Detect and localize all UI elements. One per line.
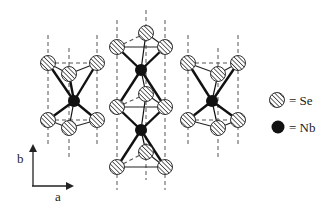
se-atom bbox=[211, 121, 226, 136]
se-legend-icon bbox=[270, 93, 285, 108]
se-atom bbox=[41, 56, 56, 71]
nb-atom bbox=[206, 95, 218, 107]
se-atom bbox=[41, 113, 56, 128]
se-atom bbox=[62, 121, 77, 136]
se-atom bbox=[139, 26, 154, 41]
nb-legend-icon bbox=[272, 121, 285, 134]
axis-indicator: b a bbox=[17, 146, 72, 204]
legend-label-nb: = Nb bbox=[289, 120, 315, 135]
legend-item-nb: = Nb bbox=[272, 120, 316, 135]
se-atom bbox=[110, 40, 125, 55]
legend-label-se: = Se bbox=[289, 93, 313, 108]
a-axis-label: a bbox=[55, 189, 61, 204]
nb-atom bbox=[135, 64, 147, 76]
nb-atom bbox=[68, 95, 80, 107]
se-atom bbox=[110, 160, 125, 175]
se-atom bbox=[90, 56, 105, 71]
nbse2-structure-diagram: = Se = Nb b a bbox=[0, 0, 331, 211]
right-prism-unit bbox=[181, 56, 246, 136]
se-atom bbox=[90, 113, 105, 128]
se-atom bbox=[158, 40, 173, 55]
se-atom bbox=[211, 67, 226, 82]
se-atom bbox=[139, 87, 154, 102]
se-atom bbox=[139, 145, 154, 160]
se-atom bbox=[231, 113, 246, 128]
se-atom bbox=[158, 100, 173, 115]
se-atom bbox=[181, 56, 196, 71]
se-atom bbox=[158, 160, 173, 175]
middle-prism-column bbox=[110, 26, 173, 175]
legend: = Se = Nb bbox=[270, 93, 316, 135]
legend-item-se: = Se bbox=[270, 93, 313, 108]
left-prism-unit bbox=[41, 56, 105, 136]
se-atom bbox=[181, 113, 196, 128]
b-axis-label: b bbox=[17, 151, 24, 166]
se-atom bbox=[62, 67, 77, 82]
se-atom bbox=[231, 56, 246, 71]
nb-atom bbox=[135, 124, 147, 136]
se-atom bbox=[110, 100, 125, 115]
